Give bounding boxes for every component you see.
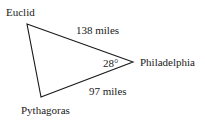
edge-label-euclid-philadelphia: 138 miles [76, 24, 119, 36]
edge-label-pythagoras-philadelphia: 97 miles [89, 85, 127, 97]
vertex-label-euclid: Euclid [6, 6, 35, 18]
vertex-label-pythagoras: Pythagoras [21, 104, 70, 116]
vertex-label-philadelphia: Philadelphia [140, 56, 195, 68]
angle-label: 28° [103, 57, 118, 69]
